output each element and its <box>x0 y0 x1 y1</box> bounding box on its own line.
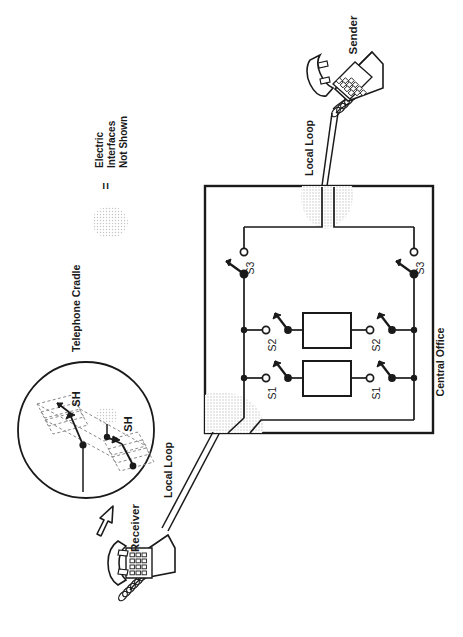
sh-lower-label: SH <box>122 416 134 431</box>
switch-s3-right-label: S3 <box>414 261 426 274</box>
switch-s3-right-open-terminal <box>410 248 417 255</box>
switch-s2-left-open-terminal <box>262 326 269 333</box>
switch-s2-left-label: S2 <box>266 338 278 351</box>
telephone-cradle-label-line1: Telephone Cradle <box>70 265 82 352</box>
central-office-label: Central Office <box>434 327 446 396</box>
sh-upper-label: SH <box>70 391 82 406</box>
sender-label: Sender <box>347 15 359 55</box>
legend-line-3: Not Shown <box>118 116 129 168</box>
receiver-handset-mouthpiece <box>118 569 128 575</box>
sh-lower-end <box>130 463 137 470</box>
switch-s1-right-label: S1 <box>370 386 382 399</box>
receiver-handset-earpiece <box>118 550 128 556</box>
switch-s1-right-open-terminal <box>366 374 373 381</box>
central-office-group: S3 S3 S2 <box>205 186 446 433</box>
switch-s2-right-open-terminal <box>366 326 373 333</box>
local-loop-label-receiver: Local Loop <box>162 442 174 498</box>
relay-box-lower <box>303 361 351 396</box>
switch-s2-right-label: S2 <box>370 338 382 351</box>
legend-line-2: Interfaces <box>106 120 117 168</box>
stipple-blob-icon-magnifier <box>96 407 118 425</box>
legend-line-1: Electric <box>94 131 105 168</box>
switch-s1-left-open-terminal <box>262 374 269 381</box>
diagram-canvas: S3 S3 S2 <box>0 0 463 637</box>
switch-s3-left-open-terminal <box>240 248 247 255</box>
legend-equals-sign: = <box>99 182 113 189</box>
switch-s1-left-label: S1 <box>266 386 278 399</box>
relay-box-upper <box>303 313 351 348</box>
telephone-network-diagram: S3 S3 S2 <box>0 0 463 637</box>
legend-stipple-swatch <box>92 206 128 238</box>
receiver-label: Receiver <box>129 504 141 552</box>
switch-s3-left-label: S3 <box>244 261 256 274</box>
local-loop-label-sender: Local Loop <box>303 120 315 176</box>
